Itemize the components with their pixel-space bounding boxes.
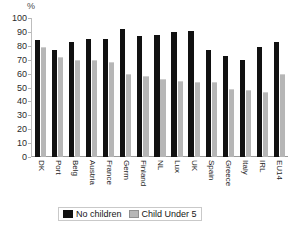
bar-group [206,18,217,157]
bar-child-under-5 [246,90,251,157]
bar-chart: % 1009080706050403020100 DKPortBelgAustr… [0,0,292,231]
y-axis-tick-label: 90 [17,28,27,37]
bar-group [154,18,165,157]
bar-group [257,18,268,157]
bar-child-under-5 [58,57,63,157]
chart-legend: No childrenChild Under 5 [58,207,202,221]
legend-item: Child Under 5 [129,210,197,219]
bar-group [188,18,199,157]
bar-no-children [154,35,159,157]
x-axis-tick-label: Germ [122,160,130,180]
bar-group [223,18,234,157]
bar-child-under-5 [212,82,217,157]
x-axis-tick: NL [151,158,168,200]
bar-child-under-5 [195,82,200,157]
y-axis-tick-label: 40 [17,97,27,106]
legend-label: Child Under 5 [142,210,197,219]
bars-layer [32,18,288,157]
x-axis-tick: EU14 [271,158,288,200]
bar-child-under-5 [263,92,268,157]
bar-group [69,18,80,157]
x-axis-tick-label: IRL [258,160,266,172]
x-axis-tick: Spain [203,158,220,200]
bar-no-children [103,39,108,157]
bar-no-children [223,56,228,157]
x-axis-tick-label: UK [190,160,198,171]
x-axis-tick-label: Finland [139,160,147,186]
x-axis-tick-label: DK [37,160,45,171]
bar-no-children [206,50,211,157]
y-axis-tick-label: 20 [17,125,27,134]
x-axis-tick-label: France [105,160,113,185]
x-axis-tick: Germ [117,158,134,200]
bar-group [103,18,114,157]
bar-child-under-5 [41,47,46,157]
legend-label: No children [76,210,122,219]
bar-child-under-5 [126,74,131,157]
bar-no-children [240,60,245,157]
x-axis-tick-label: Spain [207,160,215,180]
bar-group [86,18,97,157]
bar-no-children [274,42,279,157]
x-axis-tick: Belg [66,158,83,200]
x-axis-tick: DK [32,158,49,200]
y-axis-tick-label: 70 [17,56,27,65]
bar-no-children [35,40,40,157]
bar-child-under-5 [229,89,234,157]
x-axis-tick-label: Austria [88,160,96,185]
legend-swatch-icon [129,210,139,218]
bar-group [137,18,148,157]
bar-group [120,18,131,157]
x-axis-tick: Port [49,158,66,200]
x-axis-tick: Austria [83,158,100,200]
x-axis-tick: France [100,158,117,200]
x-axis-tick: Finland [134,158,151,200]
x-axis-tick: Italy [237,158,254,200]
bar-no-children [86,39,91,157]
bar-no-children [120,29,125,157]
y-axis-tick-mark [28,157,31,158]
x-axis-tick-label: Port [54,160,62,175]
bar-child-under-5 [75,60,80,157]
x-axis-tick-label: Lux [173,160,181,173]
bar-group [171,18,182,157]
x-axis-tick-label: Greece [224,160,232,186]
bar-child-under-5 [178,81,183,157]
x-axis: DKPortBelgAustriaFranceGermFinlandNLLuxU… [32,158,288,200]
legend-swatch-icon [63,210,73,218]
bar-child-under-5 [109,62,114,157]
x-axis-tick: UK [186,158,203,200]
y-axis-tick-label: 10 [17,139,27,148]
bar-child-under-5 [280,74,285,157]
bar-group [240,18,251,157]
bar-no-children [137,36,142,157]
y-axis-tick-label: 0 [22,153,27,162]
bar-no-children [52,50,57,157]
x-axis-tick-label: EU14 [275,160,283,180]
y-axis-tick-label: 80 [17,42,27,51]
bar-child-under-5 [160,79,165,157]
y-axis-tick-label: 50 [17,84,27,93]
x-axis-tick-label: NL [156,160,164,170]
x-axis-tick: IRL [254,158,271,200]
y-axis-unit-label: % [27,1,35,11]
legend-item: No children [63,210,122,219]
y-axis-tick-label: 100 [12,14,27,23]
bar-group [52,18,63,157]
y-axis: 1009080706050403020100 [0,18,31,157]
y-axis-tick-label: 30 [17,111,27,120]
bar-no-children [69,42,74,157]
bar-no-children [257,47,262,157]
bar-group [35,18,46,157]
bar-child-under-5 [92,60,97,157]
bar-no-children [188,31,193,157]
y-axis-tick-label: 60 [17,70,27,79]
bar-child-under-5 [143,76,148,157]
x-axis-tick-label: Italy [241,160,249,175]
bar-no-children [171,32,176,157]
x-axis-tick: Greece [220,158,237,200]
x-axis-tick-label: Belg [71,160,79,176]
x-axis-tick: Lux [169,158,186,200]
bar-group [274,18,285,157]
